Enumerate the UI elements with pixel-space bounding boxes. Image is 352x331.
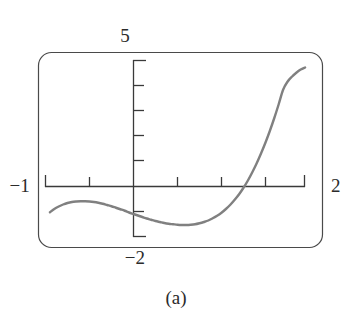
x-max-label: 2 [331, 176, 341, 195]
y-min-label: −2 [125, 248, 146, 267]
graph-plot-area [0, 0, 352, 331]
y-max-label: 5 [120, 26, 130, 45]
calculator-screen-frame [39, 53, 323, 248]
calculator-graph-figure: 5 −1 2 −2 (a) [0, 0, 352, 331]
x-min-label: −1 [9, 176, 30, 195]
figure-caption: (a) [0, 287, 352, 309]
